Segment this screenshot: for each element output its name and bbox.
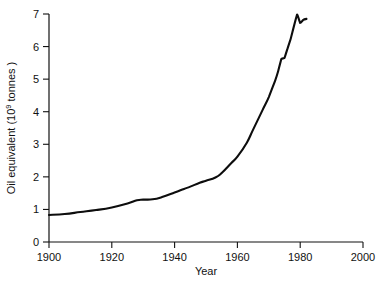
x-tick-label: 2000 [351, 251, 375, 263]
y-tick-label: 3 [33, 138, 39, 150]
x-axis-tick-labels: 190019201940196019802000 [37, 251, 375, 263]
x-tick-label: 1960 [225, 251, 249, 263]
chart-container: 01234567 190019201940196019802000 Year O… [0, 0, 386, 287]
x-tick-label: 1940 [162, 251, 186, 263]
y-tick-label: 2 [33, 171, 39, 183]
y-tick-label: 1 [33, 203, 39, 215]
x-axis-label: Year [195, 265, 218, 277]
x-tick-label: 1900 [37, 251, 61, 263]
data-series-line [49, 15, 306, 215]
y-tick-label: 6 [33, 41, 39, 53]
x-tick-label: 1920 [100, 251, 124, 263]
y-axis-label-post: tonnes ) [5, 62, 17, 105]
y-tick-label: 0 [33, 236, 39, 248]
y-axis-ticks [43, 14, 49, 242]
y-tick-label: 4 [33, 106, 39, 118]
y-axis-tick-labels: 01234567 [33, 8, 39, 248]
y-axis-label-pre: Oil equivalent (10 [5, 109, 17, 195]
y-tick-label: 5 [33, 73, 39, 85]
line-chart: 01234567 190019201940196019802000 Year O… [0, 0, 386, 287]
y-tick-label: 7 [33, 8, 39, 20]
x-tick-label: 1980 [288, 251, 312, 263]
y-axis-label: Oil equivalent (109 tonnes ) [4, 62, 17, 195]
x-axis-ticks [49, 242, 363, 248]
